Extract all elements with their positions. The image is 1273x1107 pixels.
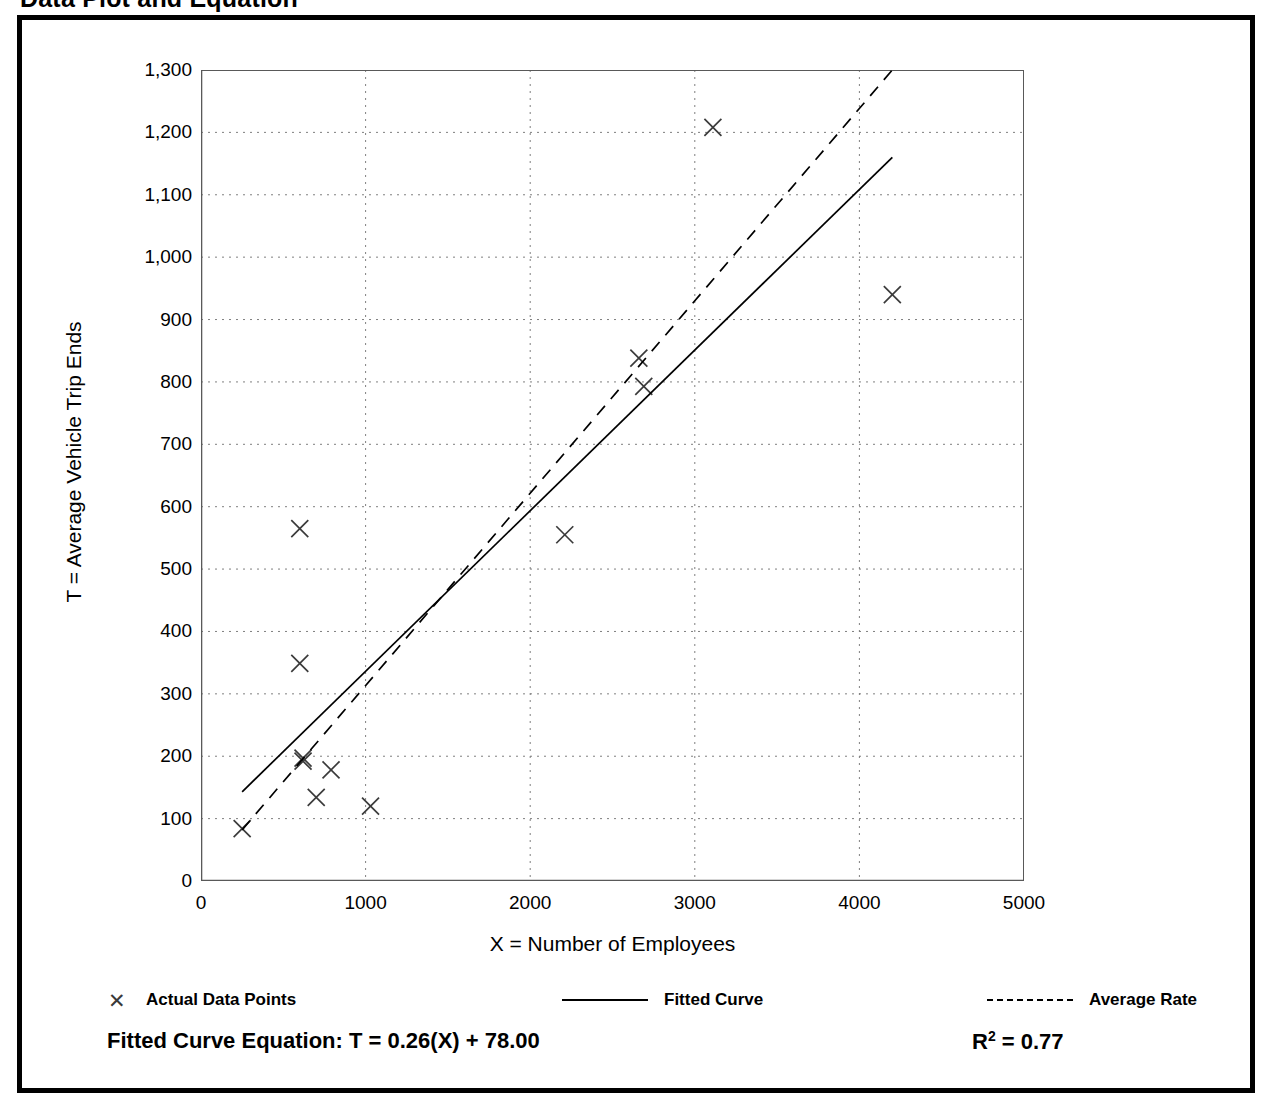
r-squared-symbol: R [972,1029,988,1054]
data-point-marker [323,761,340,778]
data-point-marker [704,119,721,136]
data-point-marker [635,378,652,395]
y-axis-tick-label: 1,200 [144,121,192,143]
y-axis-tick-label: 600 [160,496,192,518]
y-axis-tick-labels: 01002003004005006007008009001,0001,1001,… [82,70,192,881]
x-axis-tick-label: 3000 [674,892,716,914]
y-axis-tick-label: 100 [160,808,192,830]
dashed-line-icon [987,990,1073,1010]
legend-label-fitted-curve: Fitted Curve [664,990,763,1010]
legend-item-actual-data-points: ✕ Actual Data Points [104,983,296,1017]
y-axis-tick-label: 1,100 [144,184,192,206]
y-axis-tick-label: 500 [160,558,192,580]
x-axis-tick-label: 2000 [509,892,551,914]
data-point-marker [295,753,312,770]
data-point-marker [291,520,308,537]
data-point-marker [291,655,308,672]
x-axis-tick-labels: 010002000300040005000 [201,892,1024,922]
fitted-curve-equation: Fitted Curve Equation: T = 0.26(X) + 78.… [107,1028,540,1054]
r-squared-number: = 0.77 [996,1029,1064,1054]
x-axis-tick-label: 4000 [838,892,880,914]
y-axis-tick-label: 300 [160,683,192,705]
y-axis-tick-label: 200 [160,745,192,767]
x-axis-title: X = Number of Employees [201,932,1024,956]
x-axis-tick-label: 1000 [344,892,386,914]
plot-area [201,70,1024,881]
solid-line-icon [562,990,648,1010]
chart-frame: 01002003004005006007008009001,0001,1001,… [17,15,1255,1093]
legend-item-fitted-curve: Fitted Curve [562,983,763,1017]
y-axis-title: T = Average Vehicle Trip Ends [62,182,86,742]
r-squared-exponent: 2 [988,1028,996,1044]
y-axis-tick-label: 400 [160,620,192,642]
plot-svg [201,70,1024,881]
legend-item-average-rate: Average Rate [987,983,1197,1017]
page-title: Data Plot and Equation [20,0,298,13]
legend-label-average-rate: Average Rate [1089,990,1197,1010]
y-axis-tick-label: 700 [160,433,192,455]
chart-legend: ✕ Actual Data Points Fitted Curve Averag… [82,983,1222,1017]
data-point-marker [362,798,379,815]
y-axis-tick-label: 1,300 [144,59,192,81]
equation-row: Fitted Curve Equation: T = 0.26(X) + 78.… [82,1028,1222,1068]
y-axis-tick-label: 800 [160,371,192,393]
x-axis-tick-label: 0 [196,892,207,914]
legend-label-actual-data-points: Actual Data Points [146,990,296,1010]
x-marker-icon: ✕ [104,990,130,1010]
y-axis-tick-label: 1,000 [144,246,192,268]
y-axis-tick-label: 0 [181,870,192,892]
x-axis-tick-label: 5000 [1003,892,1045,914]
y-axis-tick-label: 900 [160,309,192,331]
r-squared-value: R2 = 0.77 [972,1028,1064,1055]
data-point-marker [308,789,325,806]
data-point-marker [556,526,573,543]
data-point-marker [884,286,901,303]
